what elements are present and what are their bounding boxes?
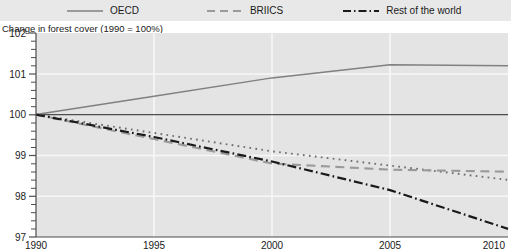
y-tick-label-98: 98 — [15, 191, 27, 202]
y-axis-major-ticks — [29, 33, 36, 237]
x-tick-label-2005: 2005 — [379, 240, 402, 251]
y-tick-label-101: 101 — [9, 69, 26, 80]
x-tick-label-1990: 1990 — [25, 240, 48, 251]
chart-plot: 102 101 100 99 98 97 1990 1995 2000 2005… — [0, 0, 511, 252]
y-tick-label-102: 102 — [9, 28, 26, 39]
y-tick-label-99: 99 — [15, 150, 27, 161]
x-tick-label-1995: 1995 — [143, 240, 166, 251]
y-tick-label-100: 100 — [9, 109, 26, 120]
x-tick-label-2010: 2010 — [483, 240, 506, 251]
y-axis-minor-ticks — [31, 41, 36, 229]
x-tick-label-2000: 2000 — [261, 240, 284, 251]
forest-cover-chart: OECD BRIICS Rest of the world World Chan… — [0, 0, 511, 252]
